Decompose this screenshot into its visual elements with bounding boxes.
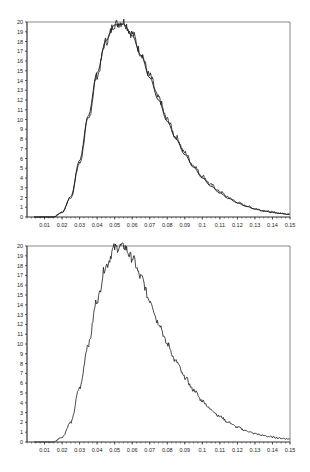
y-tick-label: 2: [20, 419, 23, 425]
y-tick-label: 4: [20, 400, 23, 406]
y-tick-label: 0: [20, 214, 23, 220]
x-tick-label: 0.09: [179, 222, 190, 228]
x-tick-label: 0.05: [109, 222, 120, 228]
y-tick-label: 4: [20, 175, 23, 181]
distribution-chart-bottom: 012345678910111213141516171819200.010.02…: [0, 236, 310, 472]
distribution-chart-top: 012345678910111213141516171819200.010.02…: [0, 0, 310, 236]
y-tick-label: 8: [20, 136, 23, 142]
x-tick-label: 0.11: [215, 222, 225, 228]
x-tick-label: 0.02: [57, 222, 68, 228]
y-tick-label: 11: [17, 331, 23, 337]
y-tick-label: 5: [20, 165, 23, 171]
x-tick-label: 0.03: [74, 447, 85, 453]
x-tick-label: 0.13: [250, 447, 261, 453]
y-tick-label: 7: [20, 370, 23, 376]
y-tick-label: 14: [17, 78, 23, 84]
chart-svg: 012345678910111213141516171819200.010.02…: [0, 236, 310, 472]
y-tick-label: 20: [17, 243, 23, 249]
y-tick-label: 3: [20, 410, 23, 416]
y-tick-label: 15: [17, 68, 23, 74]
x-tick-label: 0.15: [285, 447, 296, 453]
y-tick-label: 18: [17, 263, 23, 269]
x-tick-label: 0.01: [39, 222, 50, 228]
x-tick-label: 0.03: [74, 222, 85, 228]
x-tick-label: 0.12: [232, 222, 243, 228]
x-tick-label: 0.14: [267, 447, 278, 453]
y-tick-label: 20: [17, 19, 23, 25]
x-tick-label: 0.07: [144, 447, 155, 453]
y-tick-label: 19: [17, 253, 23, 259]
y-tick-label: 14: [17, 302, 23, 308]
x-tick-label: 0.08: [162, 222, 173, 228]
y-tick-label: 13: [17, 312, 23, 318]
y-tick-label: 6: [20, 156, 23, 162]
y-tick-label: 3: [20, 185, 23, 191]
y-tick-label: 16: [17, 58, 23, 64]
y-tick-label: 15: [17, 292, 23, 298]
y-tick-label: 12: [17, 321, 23, 327]
y-tick-label: 12: [17, 97, 23, 103]
x-tick-label: 0.05: [109, 447, 120, 453]
y-tick-label: 10: [17, 341, 23, 347]
y-tick-label: 6: [20, 380, 23, 386]
fitted-curve: [34, 24, 289, 217]
y-tick-label: 9: [20, 351, 23, 357]
x-tick-label: 0.11: [215, 447, 225, 453]
x-tick-label: 0.02: [57, 447, 68, 453]
y-tick-label: 5: [20, 390, 23, 396]
x-tick-label: 0.15: [285, 222, 296, 228]
x-tick-label: 0.04: [92, 222, 103, 228]
x-tick-label: 0.14: [267, 222, 278, 228]
y-tick-label: 1: [20, 204, 23, 210]
x-tick-label: 0.1: [199, 222, 207, 228]
chart-svg: 012345678910111213141516171819200.010.02…: [0, 0, 310, 236]
y-tick-label: 17: [17, 272, 23, 278]
x-tick-label: 0.08: [162, 447, 173, 453]
y-tick-label: 9: [20, 126, 23, 132]
x-tick-label: 0.04: [92, 447, 103, 453]
x-tick-label: 0.13: [250, 222, 261, 228]
y-tick-label: 17: [17, 48, 23, 54]
y-tick-label: 0: [20, 439, 23, 445]
y-tick-label: 18: [17, 39, 23, 45]
y-tick-label: 11: [17, 107, 23, 113]
x-tick-label: 0.01: [39, 447, 50, 453]
empirical-curve: [34, 19, 290, 217]
x-tick-label: 0.06: [127, 447, 138, 453]
y-tick-label: 8: [20, 361, 23, 367]
empirical-curve: [34, 243, 290, 442]
x-tick-label: 0.12: [232, 447, 243, 453]
y-tick-label: 2: [20, 195, 23, 201]
y-tick-label: 19: [17, 29, 23, 35]
x-tick-label: 0.06: [127, 222, 138, 228]
y-tick-label: 13: [17, 87, 23, 93]
y-tick-label: 16: [17, 282, 23, 288]
x-tick-label: 0.09: [179, 447, 190, 453]
x-tick-label: 0.07: [144, 222, 155, 228]
y-tick-label: 7: [20, 146, 23, 152]
y-tick-label: 1: [20, 429, 23, 435]
x-tick-label: 0.1: [199, 447, 207, 453]
y-tick-label: 10: [17, 117, 23, 123]
